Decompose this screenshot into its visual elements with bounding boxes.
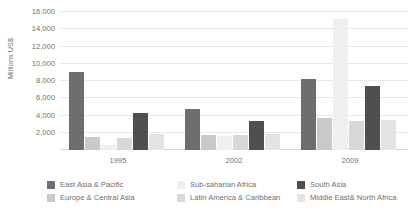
legend-label: South Asia: [310, 180, 346, 189]
legend-item[interactable]: Europe & Central Asia: [47, 191, 177, 204]
legend-swatch-icon: [297, 194, 305, 202]
bar: [333, 19, 348, 150]
bar: [117, 138, 132, 150]
legend-item[interactable]: South Asia: [297, 178, 419, 191]
bar: [149, 134, 164, 150]
bar: [317, 118, 332, 150]
bar-group: 2002: [176, 12, 292, 150]
y-tick-label: 12,000: [32, 41, 55, 50]
bar-chart: Millions US$ 2,0004,0006,0008,00010,0001…: [0, 0, 419, 211]
y-tick-label: 6,000: [36, 93, 55, 102]
bar: [201, 135, 216, 150]
y-axis-title: Millions US$: [6, 19, 15, 99]
bar: [349, 121, 364, 150]
plot-area: 2,0004,0006,0008,00010,00012,00014,00016…: [60, 12, 408, 150]
legend-item[interactable]: Sub-saharian Africa: [177, 178, 297, 191]
chart-legend: East Asia & PacificEurope & Central Asia…: [47, 178, 419, 204]
bar: [101, 145, 116, 150]
legend-item[interactable]: East Asia & Pacific: [47, 178, 177, 191]
legend-item[interactable]: Latin America & Caribbean: [177, 191, 297, 204]
y-tick-label: 4,000: [36, 110, 55, 119]
y-tick-label: 14,000: [32, 24, 55, 33]
legend-label: Europe & Central Asia: [60, 193, 135, 202]
x-tick-label: 2009: [292, 156, 408, 165]
x-tick-label: 1995: [60, 156, 176, 165]
legend-column: East Asia & PacificEurope & Central Asia: [47, 178, 177, 204]
legend-column: South AsiaMiddle East& North Africa: [297, 178, 419, 204]
bar: [85, 137, 100, 150]
y-tick-label: 16,000: [32, 7, 55, 16]
bar: [301, 79, 316, 150]
y-tick-label: 2,000: [36, 127, 55, 136]
bar: [265, 134, 280, 150]
x-tick-label: 2002: [176, 156, 292, 165]
bar: [249, 121, 264, 150]
legend-label: Middle East& North Africa: [310, 193, 397, 202]
legend-label: East Asia & Pacific: [60, 180, 123, 189]
bar: [365, 86, 380, 150]
bar: [381, 120, 396, 150]
legend-item[interactable]: Middle East& North Africa: [297, 191, 419, 204]
legend-swatch-icon: [47, 181, 55, 189]
bar: [233, 135, 248, 150]
legend-swatch-icon: [47, 194, 55, 202]
legend-label: Sub-saharian Africa: [190, 180, 256, 189]
bar: [69, 72, 84, 150]
bar: [185, 109, 200, 150]
bar: [133, 113, 148, 150]
bar-group: 1995: [60, 12, 176, 150]
legend-swatch-icon: [177, 194, 185, 202]
legend-label: Latin America & Caribbean: [190, 193, 280, 202]
bar: [217, 136, 232, 150]
legend-column: Sub-saharian AfricaLatin America & Carib…: [177, 178, 297, 204]
y-tick-label: 10,000: [32, 58, 55, 67]
legend-swatch-icon: [177, 181, 185, 189]
legend-swatch-icon: [297, 181, 305, 189]
bar-group: 2009: [292, 12, 408, 150]
y-tick-label: 8,000: [36, 76, 55, 85]
